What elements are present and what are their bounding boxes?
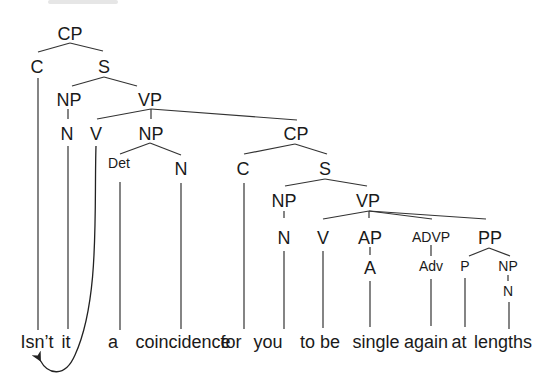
word-at: at	[451, 332, 466, 352]
word-a: a	[108, 332, 119, 352]
node-np-object: NP	[138, 124, 163, 144]
node-cp-embedded: CP	[283, 124, 308, 144]
node-np-embedded: NP	[271, 191, 296, 211]
tree-edges	[38, 43, 510, 330]
node-n-object: N	[175, 159, 188, 179]
word-single: single	[352, 332, 399, 352]
node-vp-embedded: VP	[356, 191, 380, 211]
node-v-embedded: V	[317, 228, 329, 248]
node-pp: PP	[478, 228, 502, 248]
node-vp: VP	[138, 90, 162, 110]
word-it: it	[62, 332, 71, 352]
node-np-pp: NP	[498, 258, 517, 274]
terminal-words: Isn’t it a coincidence for you to be sin…	[20, 332, 532, 352]
node-n-embedded: N	[278, 228, 291, 248]
tree-nodes: CP C S NP VP N V NP CP Det N C S NP VP N…	[31, 24, 518, 299]
syntax-tree: CP C S NP VP N V NP CP Det N C S NP VP N…	[0, 0, 555, 389]
word-isnt: Isn’t	[20, 332, 53, 352]
node-a: A	[364, 258, 376, 278]
node-c: C	[31, 57, 44, 77]
node-det: Det	[108, 155, 130, 171]
node-adv: Adv	[419, 258, 443, 274]
node-s: S	[98, 57, 110, 77]
word-to-be: to be	[300, 332, 340, 352]
node-ap: AP	[358, 228, 382, 248]
word-you: you	[253, 332, 282, 352]
word-again: again	[404, 332, 448, 352]
word-for: for	[220, 332, 241, 352]
word-coincidence: coincidence	[135, 332, 230, 352]
node-s-embedded: S	[319, 159, 331, 179]
node-advp: ADVP	[412, 229, 450, 245]
node-n-pp: N	[503, 283, 513, 299]
node-cp-root: CP	[57, 24, 82, 44]
node-np-subject: NP	[56, 90, 81, 110]
node-n-subject: N	[61, 124, 74, 144]
node-p: P	[460, 258, 469, 274]
node-c-embedded: C	[237, 159, 250, 179]
word-lengths: lengths	[474, 332, 532, 352]
node-v: V	[90, 124, 102, 144]
